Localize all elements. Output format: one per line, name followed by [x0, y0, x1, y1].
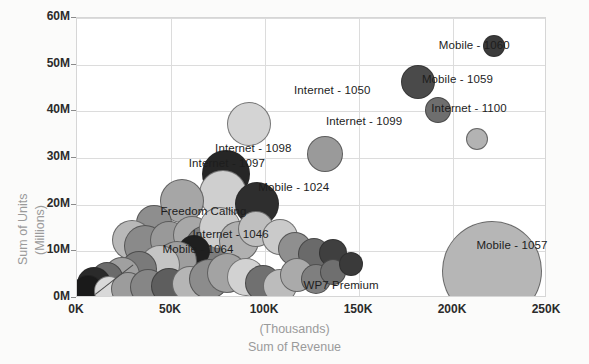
bubble-point[interactable] — [442, 221, 542, 297]
x-tick-label: 50K — [159, 302, 181, 316]
data-point-label: Mobile - 1024 — [258, 181, 329, 193]
y-axis-title-line2: (Millions) — [33, 205, 47, 255]
x-tick-label: 150K — [344, 302, 373, 316]
data-point-label: Internet - 1098 — [215, 142, 291, 154]
data-point-label: Mobile - 1060 — [439, 39, 510, 51]
y-axis-title-line1: Sum of Units — [16, 193, 30, 265]
gridline-horizontal — [77, 65, 545, 66]
data-point-label: WP7 Premium — [303, 279, 378, 291]
data-point-label: Mobile - 1059 — [422, 73, 493, 85]
y-tick-label: 60M — [47, 9, 70, 23]
y-tick-label: 0M — [53, 289, 70, 303]
data-point-label: Mobile - 1057 — [476, 239, 547, 251]
x-tick-label: 200K — [438, 302, 467, 316]
bubble-point[interactable] — [307, 136, 343, 172]
data-point-label: Internet - 1100 — [431, 102, 506, 114]
bubble-chart: Sum of Units (Millions) 0M10M20M30M40M50… — [0, 0, 589, 364]
bubble-point[interactable] — [466, 128, 488, 150]
x-tick-label: 0K — [68, 302, 83, 316]
gridline-horizontal — [77, 18, 545, 19]
gridline-vertical — [265, 18, 266, 296]
x-axis-title-line2: Sum of Revenue — [0, 340, 589, 354]
y-tick-mark — [71, 297, 76, 298]
data-point-label: Freedom Calling — [161, 205, 247, 217]
y-tick-label: 40M — [47, 102, 70, 116]
data-point-label: Internet - 1046 — [193, 228, 269, 240]
y-tick-label: 30M — [47, 149, 70, 163]
plot-area — [76, 17, 546, 297]
x-tick-label: 100K — [250, 302, 279, 316]
x-tick-label: 250K — [532, 302, 561, 316]
data-point-label: Mobile - 1064 — [162, 243, 233, 255]
y-tick-label: 20M — [47, 196, 70, 210]
data-point-label: Internet - 1050 — [294, 84, 370, 96]
y-tick-label: 10M — [47, 242, 70, 256]
data-point-label: Internet - 1099 — [326, 115, 402, 127]
y-axis-title: Sum of Units (Millions) — [2, 95, 36, 265]
y-tick-label: 50M — [47, 56, 70, 70]
data-point-label: Internet - 1097 — [189, 157, 265, 169]
x-axis-title-line1: (Thousands) — [0, 322, 589, 336]
